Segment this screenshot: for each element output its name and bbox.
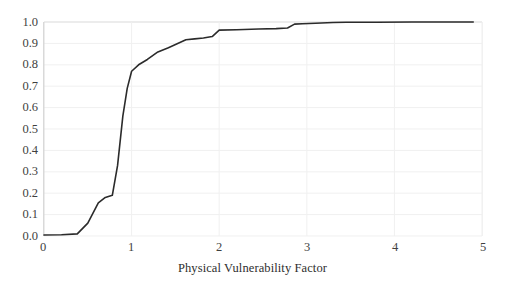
y-axis-tick-label: 0.7 bbox=[4, 80, 38, 93]
series-polyline bbox=[44, 22, 473, 235]
x-axis-tick-label: 4 bbox=[380, 240, 410, 254]
x-axis-tick-label: 3 bbox=[292, 240, 322, 254]
plot-area bbox=[43, 22, 483, 236]
y-axis-tick-label: 0.2 bbox=[4, 187, 38, 200]
chart-container: 0.00.10.20.30.40.50.60.70.80.91.0 012345… bbox=[0, 0, 505, 293]
y-axis-tick-label: 0.1 bbox=[4, 208, 38, 221]
y-axis-tick-label: 0.4 bbox=[4, 144, 38, 157]
y-axis-tick-labels: 0.00.10.20.30.40.50.60.70.80.91.0 bbox=[0, 22, 38, 236]
y-axis-tick-label: 0.5 bbox=[4, 123, 38, 136]
y-axis-tick-label: 0.9 bbox=[4, 37, 38, 50]
x-axis-tick-label: 2 bbox=[204, 240, 234, 254]
x-axis-title: Physical Vulnerability Factor bbox=[0, 261, 505, 276]
y-axis-tick-label: 0.8 bbox=[4, 58, 38, 71]
x-axis-tick-labels: 012345 bbox=[43, 240, 483, 258]
y-axis-tick-label: 0.6 bbox=[4, 101, 38, 114]
x-axis-tick-label: 5 bbox=[468, 240, 498, 254]
x-axis-tick-label: 0 bbox=[28, 240, 58, 254]
x-axis-tick-label: 1 bbox=[116, 240, 146, 254]
data-series-line bbox=[44, 22, 482, 236]
y-axis-tick-label: 1.0 bbox=[4, 16, 38, 29]
y-axis-tick-label: 0.3 bbox=[4, 165, 38, 178]
